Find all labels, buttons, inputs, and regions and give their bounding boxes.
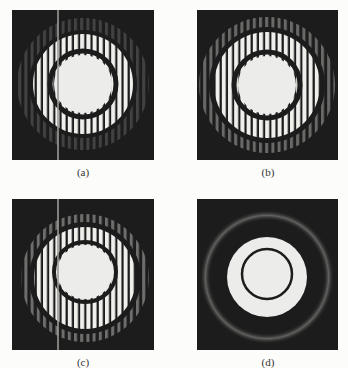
diffraction-pattern-c (12, 199, 154, 350)
panel-b-label: (b) (238, 166, 298, 178)
diffraction-pattern-b (197, 10, 338, 160)
panel-a-image (12, 10, 154, 160)
diffraction-pattern-a (12, 10, 154, 160)
diffraction-pattern-d (197, 199, 338, 350)
panel-b-image (197, 10, 338, 160)
panel-a-label: (a) (53, 166, 113, 178)
panel-c-label: (c) (53, 356, 113, 368)
panel-c-image (12, 199, 154, 350)
panel-d-label: (d) (238, 356, 298, 368)
panel-d-image (197, 199, 338, 350)
